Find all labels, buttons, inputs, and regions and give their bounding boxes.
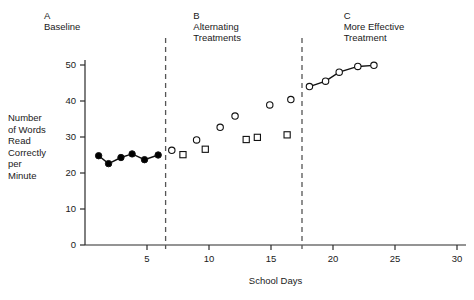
y-tick-label: 40 xyxy=(54,95,76,106)
x-tick-label: 30 xyxy=(445,253,469,264)
phase-divider-lines xyxy=(166,38,302,249)
y-tick-label: 10 xyxy=(54,203,76,214)
y-tick-label: 20 xyxy=(54,167,76,178)
data-point-filled-circle xyxy=(118,154,124,160)
data-point-filled-circle xyxy=(95,153,101,159)
y-tick-label: 0 xyxy=(54,239,76,250)
data-point-open-square xyxy=(202,146,208,152)
data-point-open-circle xyxy=(336,69,342,75)
data-point-open-square xyxy=(180,152,186,158)
data-point-open-circle xyxy=(288,96,294,102)
x-tick-label: 20 xyxy=(321,253,345,264)
data-point-filled-circle xyxy=(155,152,161,158)
data-point-open-square xyxy=(243,136,249,142)
data-point-filled-circle xyxy=(141,156,147,162)
data-point-filled-circle xyxy=(129,151,135,157)
data-point-open-circle xyxy=(306,83,312,89)
x-tick-label: 10 xyxy=(197,253,221,264)
data-point-filled-circle xyxy=(105,160,111,166)
series-2 xyxy=(180,132,290,158)
series-line xyxy=(309,65,373,86)
data-point-open-circle xyxy=(232,113,238,119)
x-tick-label: 5 xyxy=(135,253,159,264)
data-point-open-circle xyxy=(322,78,328,84)
y-tick-label: 30 xyxy=(54,131,76,142)
axes-group xyxy=(80,60,466,250)
series-0 xyxy=(95,151,161,167)
y-tick-label: 50 xyxy=(54,59,76,70)
series-3 xyxy=(306,62,377,90)
series-1 xyxy=(169,96,294,153)
x-tick-label: 25 xyxy=(383,253,407,264)
chart-figure: A Baseline B Alternating Treatments C Mo… xyxy=(0,0,474,300)
data-point-open-square xyxy=(254,134,260,140)
data-point-open-circle xyxy=(169,147,175,153)
data-point-open-circle xyxy=(355,63,361,69)
data-point-open-circle xyxy=(193,137,199,143)
data-series-group xyxy=(95,62,377,167)
data-point-open-square xyxy=(284,132,290,138)
data-point-open-circle xyxy=(217,124,223,130)
data-point-open-circle xyxy=(371,62,377,68)
x-tick-label: 15 xyxy=(259,253,283,264)
data-point-open-circle xyxy=(267,102,273,108)
